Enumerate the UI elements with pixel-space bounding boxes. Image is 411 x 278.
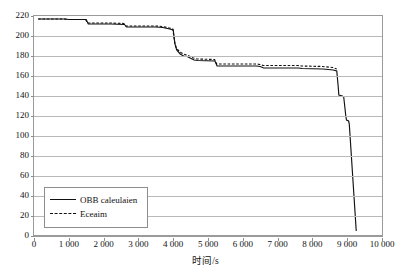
y-tick-mark bbox=[31, 36, 34, 37]
legend-label-obb-caleulaien: OBB caleulaien bbox=[77, 195, 137, 205]
x-tick-mark bbox=[104, 238, 105, 241]
y-tick: 80 bbox=[0, 151, 29, 160]
legend-swatch-dashed-icon bbox=[49, 210, 77, 218]
y-tick-label: 80 bbox=[1, 151, 29, 160]
y-tick: 180 bbox=[0, 51, 29, 60]
y-tick: 140 bbox=[0, 91, 29, 100]
x-axis-title: 时间/s bbox=[0, 256, 411, 267]
y-tick-label: 180 bbox=[1, 51, 29, 60]
y-tick-mark bbox=[31, 156, 34, 157]
chart-container: 020406080100120140160180200220 01 0002 0… bbox=[0, 0, 411, 278]
x-tick-mark bbox=[34, 238, 35, 241]
x-tick-mark bbox=[138, 238, 139, 241]
y-tick-mark bbox=[31, 136, 34, 137]
y-tick: 60 bbox=[0, 171, 29, 180]
y-tick-label: 200 bbox=[1, 31, 29, 40]
x-tick-mark bbox=[382, 238, 383, 241]
gridline bbox=[34, 116, 382, 117]
y-tick-mark bbox=[31, 196, 34, 197]
x-tick-mark bbox=[278, 238, 279, 241]
y-tick-mark bbox=[31, 116, 34, 117]
gridline bbox=[34, 36, 382, 37]
y-tick-label: 60 bbox=[1, 171, 29, 180]
y-tick-label: 100 bbox=[1, 131, 29, 140]
x-tick-mark bbox=[347, 238, 348, 241]
y-tick-mark bbox=[31, 216, 34, 217]
x-tick-mark bbox=[69, 238, 70, 241]
chart-legend: OBB caleulaien Eceaim bbox=[44, 187, 148, 228]
y-tick-mark bbox=[31, 96, 34, 97]
y-tick: 40 bbox=[0, 191, 29, 200]
y-tick: 200 bbox=[0, 31, 29, 40]
y-tick-mark bbox=[31, 76, 34, 77]
y-tick: 20 bbox=[0, 211, 29, 220]
gridline bbox=[34, 76, 382, 77]
gridline bbox=[34, 176, 382, 177]
y-tick-mark bbox=[31, 16, 34, 17]
y-tick-label: 40 bbox=[1, 191, 29, 200]
legend-item-obb-caleulaien: OBB caleulaien bbox=[49, 193, 147, 207]
legend-label-eceaim: Eceaim bbox=[77, 209, 107, 219]
x-tick-mark bbox=[312, 238, 313, 241]
x-axis: 01 0002 0003 0004 0005 0006 0007 0008 00… bbox=[33, 239, 383, 253]
gridline bbox=[34, 156, 382, 157]
x-tick-mark bbox=[208, 238, 209, 241]
legend-item-eceaim: Eceaim bbox=[49, 207, 147, 221]
y-tick: 100 bbox=[0, 131, 29, 140]
y-tick-label: 220 bbox=[1, 11, 29, 20]
x-tick-mark bbox=[243, 238, 244, 241]
legend-swatch-solid-icon bbox=[49, 196, 77, 204]
gridline bbox=[34, 136, 382, 137]
y-tick: 160 bbox=[0, 71, 29, 80]
y-tick-mark bbox=[31, 176, 34, 177]
y-tick-label: 20 bbox=[1, 211, 29, 220]
y-tick-mark bbox=[31, 236, 34, 237]
y-axis: 020406080100120140160180200220 bbox=[0, 15, 31, 237]
y-tick-label: 120 bbox=[1, 111, 29, 120]
y-tick-label: 160 bbox=[1, 71, 29, 80]
gridline bbox=[34, 96, 382, 97]
y-tick: 220 bbox=[0, 11, 29, 20]
y-tick-mark bbox=[31, 56, 34, 57]
y-tick-label: 140 bbox=[1, 91, 29, 100]
gridline bbox=[34, 235, 382, 236]
gridline bbox=[34, 56, 382, 57]
y-tick: 120 bbox=[0, 111, 29, 120]
x-tick-mark bbox=[173, 238, 174, 241]
